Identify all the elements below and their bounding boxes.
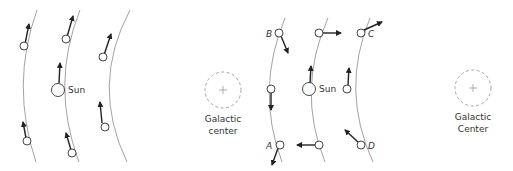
star [101, 123, 109, 131]
star-d [357, 141, 365, 149]
sun-label: Sun [68, 85, 85, 95]
point-b-label: B [266, 29, 272, 39]
star-c [357, 29, 365, 37]
star [315, 29, 323, 37]
star [99, 53, 107, 61]
star [343, 85, 351, 93]
sun-label-right: Sun [319, 84, 336, 94]
star [20, 42, 28, 50]
galactic-center-label-1: Galactic [205, 114, 241, 124]
sun-right [303, 83, 316, 96]
star [23, 137, 31, 145]
left-panel: Sun Galactic center [20, 10, 241, 162]
star [68, 149, 76, 157]
point-d-label: D [368, 141, 375, 151]
orbit-outer [109, 10, 130, 162]
galactic-rotation-diagram: Sun Galactic center B A Sun [0, 0, 513, 171]
sun [52, 84, 65, 97]
galactic-center-label-right-2: Center [458, 124, 489, 134]
star [267, 85, 275, 93]
galactic-center-label-2: center [209, 126, 238, 136]
star-b [275, 29, 283, 37]
point-a-label: A [265, 141, 272, 151]
star [315, 141, 323, 149]
point-c-label: C [368, 29, 375, 39]
star [62, 35, 70, 43]
galactic-center-label-right-1: Galactic [455, 112, 491, 122]
right-panel: B A Sun C D Galactic Center [265, 18, 491, 165]
star-a [276, 141, 284, 149]
